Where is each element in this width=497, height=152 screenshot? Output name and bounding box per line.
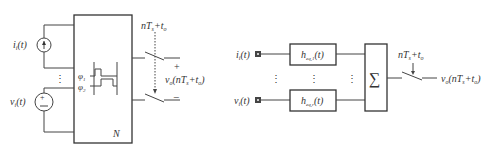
output-voltage-label: vo(nTs+to)	[441, 73, 481, 85]
ellipsis-icon: ⋮	[347, 73, 357, 84]
current-source-label: ii(t)	[13, 39, 28, 51]
right-model: ii(t) heq,1(t) ⋮ ⋮ ⋮ vi(t) heq,r(t) ∑	[234, 44, 481, 111]
switch-bottom-icon	[145, 94, 164, 102]
wire	[44, 111, 74, 132]
wire	[44, 88, 74, 93]
terminal-dot	[257, 99, 259, 101]
wire	[44, 25, 74, 38]
summation-icon: ∑	[369, 70, 380, 88]
filter1-label: heq,1(t)	[301, 49, 325, 62]
input1-label: ii(t)	[236, 49, 251, 61]
output-switch-icon	[402, 72, 422, 80]
filter1-box	[290, 44, 336, 65]
filter2-label: heq,r(t)	[301, 95, 324, 108]
output-plus-label: +	[174, 61, 180, 72]
ellipsis-icon: ⋮	[55, 73, 65, 84]
ellipsis-icon: ⋮	[271, 73, 281, 84]
output-voltage-label: vo(nTs+to)	[165, 74, 205, 86]
plus-icon: +	[40, 93, 45, 102]
arrow-head-icon	[411, 71, 415, 75]
input2-label: vi(t)	[234, 95, 250, 107]
arrow-head-icon	[42, 41, 46, 45]
wire	[44, 52, 74, 68]
network-label: N	[112, 128, 121, 139]
sample-time-label: nTs+to	[398, 49, 423, 61]
left-circuit: N ii(t) ⋮ + vi(t) φ1 φ2	[10, 15, 205, 143]
voltage-source-label: vi(t)	[10, 96, 26, 108]
phase2-label: φ2	[78, 82, 86, 93]
sample-time-label: nTs+to	[141, 20, 166, 32]
ellipsis-icon: ⋮	[309, 73, 319, 84]
phase1-label: φ1	[78, 71, 85, 82]
terminal-dot	[257, 53, 259, 55]
arrow-head-icon	[153, 89, 157, 94]
diagram-canvas: N ii(t) ⋮ + vi(t) φ1 φ2	[0, 0, 497, 152]
clock-phases-icon	[90, 62, 117, 95]
output-minus-label: −	[173, 91, 179, 103]
